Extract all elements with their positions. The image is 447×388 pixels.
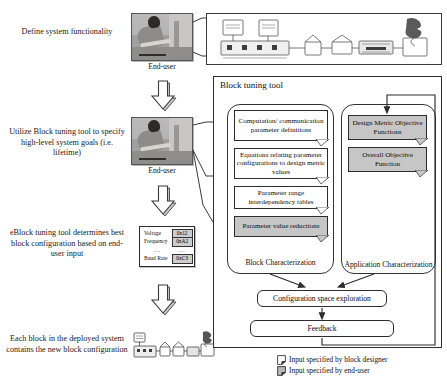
step-label-define: Define system functionality — [6, 27, 128, 38]
legend-label: Input specified by end-user — [289, 366, 370, 375]
note-white-icon — [277, 355, 286, 365]
config-value-baud-rate: 0xC3 — [172, 255, 192, 263]
note-parameter-range-interdependency-tables: Parameter range interdependency tables — [234, 186, 328, 209]
photo-post — [174, 125, 179, 152]
step-label-determine-text: eBlock tuning tool determines best block… — [10, 228, 124, 258]
note-computation-communication-parameter-definitions: Computation/ communication parameter def… — [234, 110, 328, 141]
note-label: Computation/ communication parameter def… — [236, 117, 326, 134]
config-value-ellipsis: ... — [172, 246, 192, 254]
note-overall-objective-function: Overall Objective Function — [348, 147, 427, 172]
config-row-ellipsis: ... ... — [143, 246, 192, 254]
note-label: Overall Objective Function — [350, 151, 425, 168]
block-characterization-caption: Block Characterization — [228, 258, 333, 267]
note-design-metric-objective-functions: Design Metric Objective Functions — [348, 115, 427, 140]
note-fold-icon — [415, 170, 428, 177]
photo-head — [147, 119, 161, 133]
block-tuning-tool-panel: Block tuning tool Block Characterization… — [213, 76, 442, 348]
note-label: Equations relating parameter configurati… — [236, 151, 326, 177]
photo-post — [174, 21, 179, 48]
note-equations-relating-parameter-configurations: Equations relating parameter configurati… — [234, 148, 328, 179]
process-label: Configuration space exploration — [273, 294, 371, 303]
config-value-frequency: 0xA2 — [172, 238, 192, 246]
config-key-baud-rate: Baud Rate — [143, 255, 172, 263]
process-feedback: Feedback — [250, 320, 394, 337]
step-label-deploy-text: Each block in the deployed system contai… — [6, 334, 127, 354]
note-fold-icon — [316, 177, 329, 184]
photo-shadow — [139, 54, 165, 56]
end-user-photo-mid — [131, 117, 193, 165]
note-parameter-value-reductions: Parameter value reductions — [234, 216, 328, 237]
end-user-photo-top — [131, 13, 193, 61]
end-user-figure-mid: End-user — [131, 117, 193, 175]
note-fold-icon — [415, 138, 428, 145]
step-label-utilize-text: Utilize Block tuning tool to specify hig… — [9, 127, 125, 157]
config-key-ellipsis: ... — [143, 246, 172, 254]
legend: Input specified by block designer Input … — [277, 354, 442, 376]
block-tuning-tool-title: Block tuning tool — [220, 80, 283, 90]
end-user-caption-mid: End-user — [131, 166, 193, 175]
note-label: Parameter value reductions — [242, 222, 319, 231]
photo-shadow — [139, 158, 165, 160]
system-functionality-sketch — [207, 14, 441, 64]
legend-item-block-designer: Input specified by block designer — [277, 354, 442, 365]
process-configuration-space-exploration: Configuration space exploration — [257, 290, 387, 307]
process-label: Feedback — [307, 324, 336, 333]
step-label-deploy: Each block in the deployed system contai… — [6, 334, 128, 355]
config-key-frequency: Frequency — [143, 238, 172, 246]
note-fold-icon — [316, 207, 329, 214]
note-gray-icon — [277, 366, 286, 376]
config-row-voltage: Voltage 0x12 — [143, 230, 192, 238]
system-functionality-panel — [206, 13, 442, 65]
note-label: Design Metric Objective Functions — [350, 119, 425, 136]
legend-item-end-user: Input specified by end-user — [277, 365, 442, 376]
flow-arrow-1 — [148, 79, 178, 113]
photo-wall — [169, 14, 192, 48]
end-user-figure-top: End-user — [131, 13, 193, 71]
config-value-voltage: 0x12 — [172, 230, 192, 238]
end-user-caption-top: End-user — [131, 62, 193, 71]
legend-label: Input specified by block designer — [289, 355, 388, 364]
photo-head — [147, 15, 161, 29]
note-label: Parameter range interdependency tables — [236, 189, 326, 206]
note-fold-icon — [316, 235, 329, 242]
step-label-determine: eBlock tuning tool determines best block… — [6, 228, 128, 260]
config-row-frequency: Frequency 0xA2 — [143, 238, 192, 246]
note-fold-icon — [316, 139, 329, 146]
flow-arrow-2 — [148, 184, 178, 218]
application-characterization-caption: Application Characterization — [342, 260, 435, 269]
config-key-voltage: Voltage — [143, 230, 172, 238]
photo-wall — [169, 118, 192, 152]
step-label-define-text: Define system functionality — [22, 27, 113, 36]
block-configuration-table: Voltage 0x12 Frequency 0xA2 ... ... Baud… — [139, 226, 195, 267]
flow-arrow-3 — [148, 283, 178, 317]
deployed-system-sketch — [132, 330, 216, 364]
step-label-utilize: Utilize Block tuning tool to specify hig… — [6, 127, 128, 159]
config-row-baud: Baud Rate 0xC3 — [143, 255, 192, 263]
